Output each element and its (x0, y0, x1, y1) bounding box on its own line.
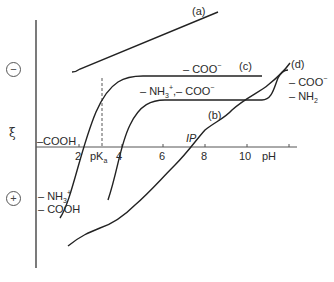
left-nh3-text: – NH (38, 190, 63, 202)
y-axis-label: ξ (9, 127, 16, 139)
right-coo-sup: − (323, 75, 327, 82)
x-axis-label: pH (262, 151, 276, 162)
left-cooh-label: – COOH (38, 204, 80, 215)
pka-subscript: a (103, 157, 107, 164)
x-tick-10: 10 (239, 151, 251, 162)
right-nh2-text: – NH (289, 90, 314, 102)
left-nh3-sup: + (67, 189, 71, 196)
nh3-sub: 3 (165, 92, 169, 99)
nh-text: – NH (140, 85, 165, 97)
coo-tail-sup: − (210, 84, 214, 91)
pka-text: pK (90, 150, 103, 162)
curve-label-b: (b) (208, 110, 221, 121)
curve-label-a: (a) (192, 6, 205, 17)
coo-text: – COO (183, 63, 217, 75)
nh3-coo-label: – NH3+,– COO− (140, 84, 214, 99)
x-tick-6: 6 (159, 151, 165, 162)
pka-label: pKa (90, 151, 107, 164)
ip-label: IP (186, 133, 196, 144)
curve-label-d: (d) (291, 59, 304, 70)
x-tick-2: 2 (75, 151, 81, 162)
right-nh2-sub: 2 (314, 97, 318, 104)
negative-region-icon: − (6, 62, 21, 77)
coo-minus-label-c: – COO− (183, 62, 221, 75)
curve-label-c: (c) (239, 61, 252, 72)
right-coo-text: – COO (289, 76, 323, 88)
right-nh2-label: – NH2 (289, 91, 318, 104)
left-nh3-label: – NH3+ (38, 189, 71, 204)
right-coo-label: – COO− (289, 75, 327, 88)
x-tick-4: 4 (116, 151, 122, 162)
x-tick-8: 8 (201, 151, 207, 162)
cooh-axis-label: –COOH (37, 136, 76, 147)
coo-tail-text: ,– COO (173, 85, 210, 97)
coo-sup: − (217, 62, 221, 69)
positive-region-icon: + (6, 191, 21, 206)
